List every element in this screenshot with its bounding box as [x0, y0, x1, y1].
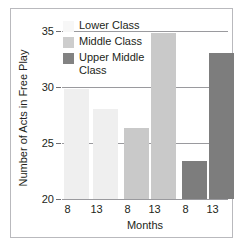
chart-legend: Lower Class Middle Class Upper Middle Cl…: [63, 19, 168, 80]
x-axis-line: [62, 199, 228, 200]
y-tick-label-35: 35: [42, 26, 54, 37]
x-tick-label-upper-13: 13: [200, 203, 225, 215]
x-tick-label-lower-13: 13: [84, 203, 109, 215]
chart-figure: 35 30 25 20 Number of Acts in Free Play …: [0, 0, 243, 249]
y-axis-title: Number of Acts in Free Play: [17, 33, 29, 203]
legend-swatch-lower-class: [63, 21, 74, 32]
y-tick-mark-35: [56, 31, 61, 32]
legend-label-lower-class: Lower Class: [79, 19, 140, 32]
bar-middle-class-8: [124, 128, 149, 199]
legend-item-lower-class: Lower Class: [63, 19, 168, 34]
legend-label-upper-middle-class-line2: Class: [79, 64, 107, 77]
x-axis-title: Months: [62, 219, 228, 231]
y-tick-mark-25: [56, 143, 61, 144]
x-tick-label-middle-13: 13: [142, 203, 167, 215]
bar-upper-middle-class-13: [209, 53, 234, 199]
y-tick-label-25: 25: [42, 138, 54, 149]
bar-upper-middle-class-8: [182, 161, 207, 199]
legend-item-upper-middle-class: Upper Middle Class: [63, 51, 168, 79]
x-tick-label-middle-8: 8: [115, 203, 140, 215]
bar-lower-class-13: [93, 109, 118, 199]
legend-item-middle-class: Middle Class: [63, 35, 168, 50]
legend-label-upper-middle-class-line1: Upper Middle: [79, 51, 144, 64]
legend-label-middle-class: Middle Class: [79, 35, 142, 48]
y-tick-label-30: 30: [42, 82, 54, 93]
gridline-30: [62, 87, 228, 88]
y-tick-mark-30: [56, 87, 61, 88]
x-tick-label-lower-8: 8: [55, 203, 80, 215]
legend-swatch-upper-middle-class: [63, 53, 74, 64]
legend-swatch-middle-class: [63, 37, 74, 48]
y-tick-mark-20: [56, 199, 61, 200]
y-tick-label-20: 20: [42, 194, 54, 205]
bar-lower-class-8: [64, 89, 89, 199]
x-tick-label-upper-8: 8: [173, 203, 198, 215]
